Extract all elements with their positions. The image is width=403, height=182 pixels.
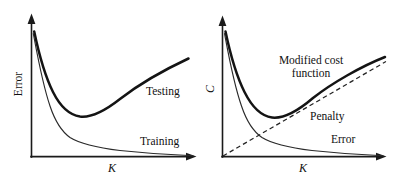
left-label-training: Training (140, 135, 179, 148)
right-error-curve (225, 34, 384, 156)
right-y-axis-arrow-icon (219, 16, 227, 27)
left-x-axis-label: K (107, 161, 117, 175)
left-testing-curve (34, 32, 188, 117)
right-x-axis (222, 153, 387, 161)
figure-svg: Testing Training Error K (0, 0, 403, 182)
right-label-modified-cost-line2: function (292, 67, 331, 79)
right-label-error: Error (331, 133, 355, 145)
right-label-penalty: Penalty (310, 110, 345, 123)
right-label-modified-cost-line1: Modified cost (279, 54, 344, 66)
panel-left: Testing Training Error K (12, 14, 197, 176)
left-x-axis (31, 153, 197, 161)
left-x-axis-arrow-icon (186, 153, 197, 161)
figure-container: Testing Training Error K (0, 0, 403, 182)
panel-right: Modified cost function Penalty Error C K (203, 16, 387, 176)
left-y-axis-label: Error (12, 72, 24, 96)
right-x-axis-arrow-icon (376, 153, 387, 161)
left-label-testing: Testing (146, 85, 180, 98)
right-y-axis-label: C (203, 84, 217, 93)
left-y-axis-arrow-icon (28, 14, 36, 25)
right-x-axis-label: K (298, 161, 308, 175)
